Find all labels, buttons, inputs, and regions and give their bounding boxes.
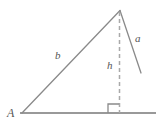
figure-canvas (0, 0, 156, 126)
side-b-label: b (55, 50, 61, 61)
altitude-h-label: h (107, 60, 113, 71)
right-angle-marker (108, 104, 119, 113)
triangle-altitude-figure: a b h A (0, 0, 156, 126)
vertex-a-label: A (7, 107, 14, 119)
side-b-line (22, 11, 120, 114)
side-a-label: a (135, 33, 141, 44)
